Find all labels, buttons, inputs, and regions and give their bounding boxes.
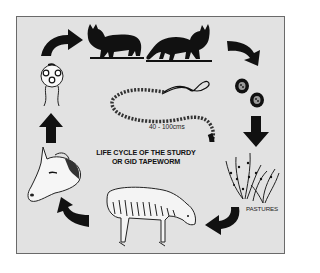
title-line-1: LIFE CYCLE OF THE STURDY <box>86 148 206 157</box>
up-arrow-icon <box>39 113 63 143</box>
fox-silhouette-icon <box>144 22 214 64</box>
diagram-title: LIFE CYCLE OF THE STURDY OR GID TAPEWORM <box>86 148 206 166</box>
curved-arrow-icon <box>38 28 86 58</box>
pastures-label: PASTURES <box>246 205 278 212</box>
curved-arrow-icon <box>203 205 243 235</box>
tapeworm-eggs-icon <box>233 78 267 110</box>
grazing-sheep-icon <box>103 184 199 250</box>
dog-silhouette-icon <box>84 20 144 62</box>
sheep-head-icon <box>25 145 85 205</box>
tapeworm-icon <box>108 80 220 146</box>
title-line-2: OR GID TAPEWORM <box>86 157 206 166</box>
down-arrow-icon <box>243 116 269 148</box>
coenurus-cyst-icon <box>38 62 66 110</box>
pasture-grass-icon <box>223 149 285 205</box>
tapeworm-length-label: 40 - 100cms <box>149 123 185 130</box>
curved-arrow-icon <box>226 33 266 67</box>
